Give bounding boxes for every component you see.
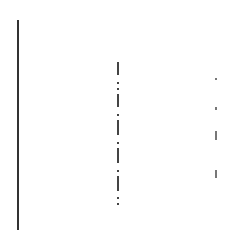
line-dash [117, 150, 119, 163]
line-dot [117, 170, 119, 172]
line-dash [117, 94, 119, 107]
line-dot [117, 88, 119, 90]
line-dash [117, 122, 119, 135]
diagram-canvas [0, 0, 235, 240]
right-mark [215, 107, 217, 110]
line-dot [117, 142, 119, 144]
right-mark [215, 170, 217, 178]
left-axis-line [17, 20, 19, 230]
right-mark [215, 78, 217, 80]
line-dot [117, 82, 119, 84]
line-dash [117, 62, 119, 75]
line-dot [117, 203, 119, 205]
line-dot [117, 197, 119, 199]
line-dash [117, 178, 119, 191]
right-mark [215, 131, 217, 140]
line-dot [117, 114, 119, 116]
